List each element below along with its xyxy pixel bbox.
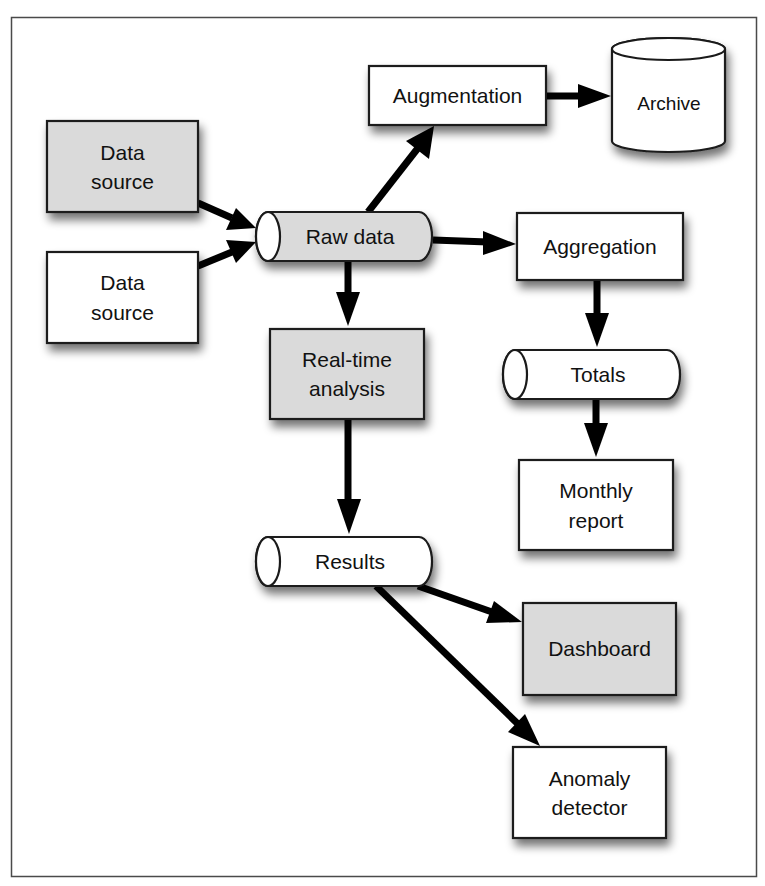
node-archive[interactable]: Archive <box>612 38 725 152</box>
node-dashboard[interactable]: Dashboard <box>523 603 676 695</box>
cylinder-top-icon <box>612 38 725 60</box>
node-augmentation[interactable]: Augmentation <box>369 66 546 125</box>
node-label: Real-time <box>302 348 392 371</box>
node-label: Totals <box>571 363 626 386</box>
node-label: Results <box>315 550 385 573</box>
cylinder-cap-icon <box>503 350 527 399</box>
node-label: Monthly <box>559 479 633 502</box>
node-results[interactable]: Results <box>256 537 432 586</box>
node-label: Archive <box>637 93 700 114</box>
cylinder-cap-icon <box>256 537 280 586</box>
node-label: Anomaly <box>549 767 631 790</box>
node-label: report <box>569 509 624 532</box>
node-aggregation[interactable]: Aggregation <box>517 213 683 280</box>
node-label: source <box>91 301 154 324</box>
node-label: Data <box>100 271 145 294</box>
node-label: Dashboard <box>548 637 651 660</box>
node-label: source <box>91 170 154 193</box>
node-monthly-report[interactable]: Monthly report <box>519 460 673 550</box>
node-realtime-analysis[interactable]: Real-time analysis <box>270 329 424 419</box>
node-label: Raw data <box>306 225 395 248</box>
node-raw-data[interactable]: Raw data <box>256 212 432 261</box>
node-anomaly-detector[interactable]: Anomaly detector <box>513 747 666 838</box>
node-data-source-2[interactable]: Data source <box>47 252 198 343</box>
node-data-source-1[interactable]: Data source <box>47 121 198 212</box>
data-flow-diagram: Data source Data source Raw data Augment… <box>0 0 765 886</box>
node-label: analysis <box>309 377 385 400</box>
node-label: detector <box>552 796 628 819</box>
node-totals[interactable]: Totals <box>503 350 680 399</box>
node-label: Data <box>100 141 145 164</box>
node-label: Aggregation <box>543 235 656 258</box>
cylinder-cap-icon <box>256 212 280 261</box>
node-label: Augmentation <box>393 84 523 107</box>
